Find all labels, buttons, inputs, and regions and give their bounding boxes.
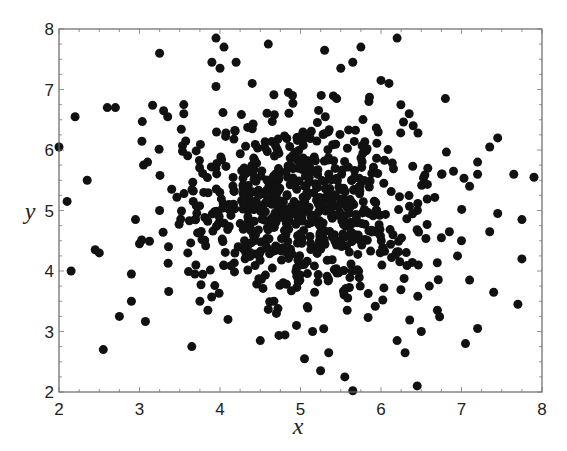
data-point	[530, 173, 539, 182]
data-point	[359, 115, 368, 124]
data-point	[320, 46, 329, 55]
data-point	[493, 209, 502, 218]
data-point	[188, 178, 197, 187]
data-point	[323, 192, 332, 201]
data-point	[282, 167, 291, 176]
data-point	[270, 184, 279, 193]
data-point	[212, 34, 221, 43]
data-point	[396, 100, 405, 109]
data-point	[183, 151, 192, 160]
data-point	[485, 227, 494, 236]
data-point	[465, 276, 474, 285]
y-tick-label: 5	[45, 202, 54, 221]
data-point	[138, 117, 147, 126]
data-point	[347, 260, 356, 269]
data-point	[401, 348, 410, 357]
data-point	[296, 229, 305, 238]
data-point	[316, 222, 325, 231]
data-point	[517, 215, 526, 224]
data-point	[336, 130, 345, 139]
data-point	[364, 313, 373, 322]
data-point	[489, 288, 498, 297]
data-point	[361, 220, 370, 229]
data-point	[313, 277, 322, 286]
data-point	[413, 381, 422, 390]
data-point	[334, 268, 343, 277]
data-point	[391, 250, 400, 259]
data-point	[302, 189, 311, 198]
data-point	[298, 130, 307, 139]
data-point	[208, 227, 217, 236]
data-point	[272, 218, 281, 227]
data-point	[437, 233, 446, 242]
data-point	[327, 175, 336, 184]
data-point	[348, 386, 357, 395]
data-point	[377, 76, 386, 85]
data-point	[259, 284, 268, 293]
data-point	[339, 229, 348, 238]
data-point	[195, 156, 204, 165]
data-point	[373, 228, 382, 237]
data-point	[340, 372, 349, 381]
data-point	[359, 197, 368, 206]
data-point	[399, 118, 408, 127]
data-point	[249, 205, 258, 214]
data-point	[212, 128, 221, 137]
data-point	[216, 64, 225, 73]
data-point	[111, 103, 120, 112]
data-point	[221, 248, 230, 257]
data-point	[290, 181, 299, 190]
data-point	[67, 267, 76, 276]
data-point	[179, 109, 188, 118]
data-point	[241, 169, 250, 178]
data-point	[316, 366, 325, 375]
data-point	[357, 241, 366, 250]
data-point	[288, 99, 297, 108]
data-point	[356, 282, 365, 291]
data-point	[206, 266, 215, 275]
data-point	[137, 137, 146, 146]
data-point	[164, 259, 173, 268]
data-point	[403, 261, 412, 270]
data-point	[417, 327, 426, 336]
data-point	[365, 93, 374, 102]
data-point	[413, 199, 422, 208]
data-point	[331, 140, 340, 149]
data-point	[203, 217, 212, 226]
data-point	[283, 237, 292, 246]
data-point	[210, 281, 219, 290]
data-point	[309, 211, 318, 220]
data-point	[103, 103, 112, 112]
data-point	[375, 220, 384, 229]
data-point	[408, 162, 417, 171]
data-point	[229, 173, 238, 182]
data-point	[286, 245, 295, 254]
data-point	[231, 127, 240, 136]
data-point	[155, 145, 164, 154]
data-point	[256, 172, 265, 181]
y-tick-label: 3	[45, 323, 54, 342]
data-point	[402, 214, 411, 223]
data-point	[223, 225, 232, 234]
data-point	[243, 123, 252, 132]
data-point	[329, 233, 338, 242]
data-point	[282, 134, 291, 143]
data-point	[127, 270, 136, 279]
data-point	[254, 191, 263, 200]
x-tick-label: 6	[376, 400, 385, 419]
data-point	[449, 167, 458, 176]
data-point	[284, 225, 293, 234]
data-point	[312, 137, 321, 146]
data-point	[509, 170, 518, 179]
data-point	[358, 208, 367, 217]
data-point	[260, 216, 269, 225]
data-point	[155, 206, 164, 215]
data-point	[400, 274, 409, 283]
data-point	[306, 232, 315, 241]
data-point	[442, 148, 451, 157]
data-point	[271, 200, 280, 209]
data-point	[310, 288, 319, 297]
data-point	[230, 187, 239, 196]
data-point	[379, 283, 388, 292]
data-point	[163, 112, 172, 121]
